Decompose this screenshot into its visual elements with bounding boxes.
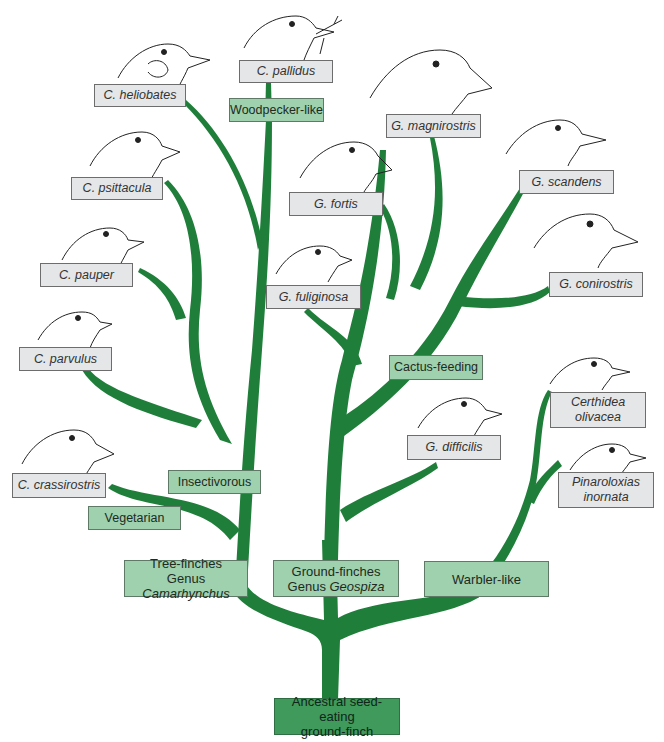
species-g-fuliginosa: G. fuliginosa [266,285,361,309]
species-label: G. fortis [314,197,358,212]
genus-name: Geospiza [330,579,385,594]
branch-fortis [380,204,400,300]
species-label-line1: Pinaroloxias [572,475,640,490]
group-warbler-like: Warbler-like [424,561,549,597]
species-certhidea-olivacea: Certhidea olivacea [550,392,646,428]
species-label: C. parvulus [34,352,97,367]
species-pinaroloxias-inornata: Pinaroloxias inornata [558,472,654,508]
trait-label: Insectivorous [178,475,252,490]
species-label: C. heliobates [104,88,177,103]
species-c-psittacula: C. psittacula [71,177,163,200]
root-ancestral-ground-finch: Ancestral seed-eating ground-finch [274,698,400,735]
species-c-pallidus: C. pallidus [239,60,333,83]
trait-woodpecker-like: Woodpecker-like [229,98,324,122]
finch-head-fuliginosa [276,246,352,282]
trait-label: Woodpecker-like [230,103,323,118]
finch-head-certhidea [550,358,630,390]
species-label: G. magnirostris [391,119,476,134]
trait-insectivorous: Insectivorous [168,470,261,494]
finch-head-scandens [506,120,606,166]
finch-head-difficilis [418,398,502,436]
species-label: C. psittacula [83,181,152,196]
trait-cactus-feeding: Cactus-feeding [389,355,483,380]
finch-head-conirostris [534,214,638,268]
species-g-difficilis: G. difficilis [407,435,501,460]
branch-heliobates [184,100,262,250]
species-g-scandens: G. scandens [519,170,614,194]
group-ground-finches: Ground-finches Genus Geospiza [273,560,399,597]
group-label-line1: Tree-finches [150,556,222,571]
trait-label: Cactus-feeding [394,360,478,375]
group-tree-finches: Tree-finches Genus Camarhynchus [124,560,248,597]
species-label: G. difficilis [426,440,483,455]
group-label-line2: Genus Camarhynchus [125,571,247,601]
genus-prefix: Genus [167,571,205,586]
trait-label: Vegetarian [105,511,165,526]
root-label-line1: Ancestral seed-eating [275,694,399,724]
species-label-line2: olivacea [575,410,621,425]
species-g-magnirostris: G. magnirostris [386,114,481,138]
group-label: Warbler-like [452,572,521,587]
branch-difficilis [340,462,438,522]
phylogeny-branches [0,0,664,742]
branch-parvulus [82,368,202,428]
finch-head-magnirostris [370,50,492,114]
branch-pauper [138,268,186,320]
species-c-heliobates: C. heliobates [94,84,186,107]
species-g-fortis: G. fortis [289,192,383,216]
species-label: C. pallidus [257,64,315,79]
group-label-line2: Genus Geospiza [288,579,385,594]
genus-prefix: Genus [288,579,330,594]
finch-head-parvulus [38,312,112,348]
species-c-pauper: C. pauper [40,263,133,287]
finch-head-crassirostris [22,430,114,478]
species-label-line2: inornata [583,490,628,505]
species-label: G. conirostris [559,277,633,292]
finch-head-pallidus [244,16,342,60]
trait-vegetarian: Vegetarian [88,506,181,530]
genus-name: Camarhynchus [142,586,229,601]
species-label: C. pauper [59,268,114,283]
species-label: G. scandens [531,175,601,190]
root-label-line2: ground-finch [301,724,373,739]
species-label: C. crassirostris [18,478,101,493]
group-label-line1: Ground-finches [292,564,381,579]
finch-head-psittacula [90,132,180,182]
species-c-crassirostris: C. crassirostris [12,473,106,498]
species-label: G. fuliginosa [279,290,348,305]
species-label-line1: Certhidea [571,395,625,410]
species-g-conirostris: G. conirostris [549,272,643,297]
branch-magnirostris [410,136,443,290]
species-c-parvulus: C. parvulus [19,347,112,371]
